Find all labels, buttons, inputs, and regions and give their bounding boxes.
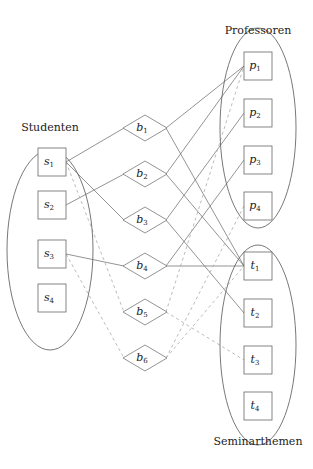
nodes: s1s2s3s4b1b2b3b4b5b6p1p2p3p4t1t2t3t4 xyxy=(38,52,272,420)
students-label: Studenten xyxy=(21,121,79,134)
node-b6: b6 xyxy=(123,345,167,371)
edge-b5-p1 xyxy=(166,66,244,312)
edge-b3-t2 xyxy=(166,220,244,313)
edge-b4-p3 xyxy=(166,160,244,266)
node-b5: b5 xyxy=(123,299,167,325)
node-s2: s2 xyxy=(38,191,66,219)
node-t4: t4 xyxy=(244,392,272,420)
node-t1: t1 xyxy=(244,252,272,280)
edge-b2-t1 xyxy=(166,174,244,266)
bipartite-relation-diagram: Studenten Professoren Seminarthemen s1s2… xyxy=(0,0,313,469)
node-b3: b3 xyxy=(123,207,167,233)
edge-b1-p1 xyxy=(166,66,244,128)
edge-b1-t1 xyxy=(166,128,244,266)
edge-b6-p4 xyxy=(166,206,244,358)
node-s4: s4 xyxy=(38,284,66,312)
node-t2: t2 xyxy=(244,299,272,327)
node-p4: p4 xyxy=(244,192,272,220)
edge-s2-b2 xyxy=(66,174,124,205)
edge-s1-b3 xyxy=(66,162,124,220)
node-p3: p3 xyxy=(244,146,272,174)
groups: Studenten Professoren Seminarthemen xyxy=(7,24,302,448)
node-t3: t3 xyxy=(244,346,272,374)
node-b2: b2 xyxy=(123,161,167,187)
node-p2: p2 xyxy=(244,99,272,127)
node-b4: b4 xyxy=(123,253,167,279)
edge-b2-p1 xyxy=(166,66,244,174)
edge-s3-b4 xyxy=(66,254,124,266)
edge-s1-b5 xyxy=(66,162,124,312)
edge-b3-p2 xyxy=(166,113,244,220)
professors-label: Professoren xyxy=(225,24,292,37)
edge-s3-b6 xyxy=(66,254,124,358)
node-b1: b1 xyxy=(123,115,167,141)
node-p1: p1 xyxy=(244,52,272,80)
edge-b6-t1 xyxy=(166,266,244,358)
node-s1: s1 xyxy=(38,148,66,176)
node-s3: s3 xyxy=(38,240,66,268)
topics-label: Seminarthemen xyxy=(214,435,303,448)
